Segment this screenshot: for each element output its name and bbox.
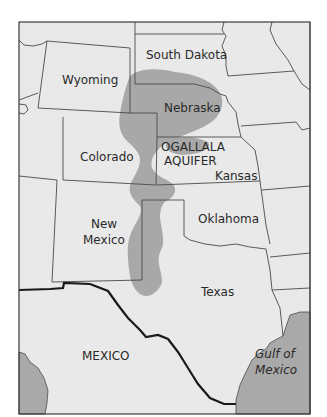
label-mexico: MEXICO [82, 349, 130, 363]
label-texas: Texas [200, 285, 234, 299]
label-oklahoma: Oklahoma [198, 212, 259, 226]
label-new-mexico-line1: New [91, 217, 117, 231]
label-nebraska: Nebraska [164, 101, 221, 115]
label-gulf-line2: Mexico [255, 363, 297, 377]
label-south-dakota: South Dakota [146, 48, 227, 62]
label-gulf-line1: Gulf of [255, 347, 297, 361]
label-aquifer-line1: OGALLALA [161, 140, 226, 154]
label-kansas: Kansas [215, 169, 257, 183]
map: Wyoming South Dakota Nebraska Colorado O… [0, 0, 327, 417]
label-aquifer-line2: AQUIFER [164, 154, 217, 168]
label-colorado: Colorado [80, 150, 134, 164]
label-new-mexico-line2: Mexico [83, 233, 125, 247]
label-wyoming: Wyoming [62, 73, 118, 87]
